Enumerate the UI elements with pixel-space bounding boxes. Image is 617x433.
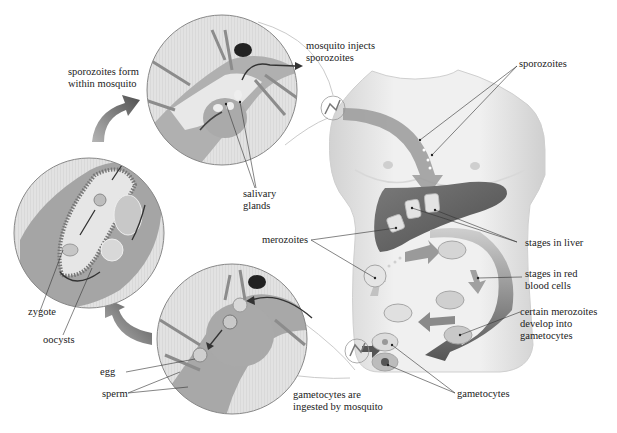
label-mosquito-injects: mosquito injects sporozoites	[306, 40, 375, 64]
mosquito-eye-2	[248, 275, 266, 289]
rbc-2	[436, 291, 464, 309]
gametocyte-in-gut-2	[223, 315, 237, 329]
label-sporozoites: sporozoites	[519, 58, 567, 70]
mosquito-eye	[234, 43, 252, 57]
label-gametocytes-ingested: gametocytes are ingested by mosquito	[293, 389, 383, 413]
rbc-gametocyte-dev	[444, 326, 472, 344]
rbc-3	[384, 304, 412, 322]
label-sporozoites-form: sporozoites form within mosquito	[68, 66, 139, 90]
merozoite-cluster	[364, 265, 386, 287]
label-stages-in-liver: stages in liver	[525, 237, 583, 249]
oocyst-cell	[101, 239, 123, 261]
inset-gametocytes-ingested	[157, 264, 312, 420]
gametocyte-in-gut-1	[233, 298, 247, 312]
rbc-1	[438, 241, 466, 259]
label-salivary-glands: salivary glands	[243, 188, 276, 212]
right-nipple	[470, 162, 480, 170]
label-zygote: zygote	[28, 306, 56, 318]
label-certain-merozoites: certain merozoites develop into gametocy…	[520, 306, 597, 342]
left-nipple	[383, 161, 393, 169]
inset-mosquito-midgut	[14, 158, 164, 308]
label-sperm: sperm	[102, 388, 128, 400]
label-stages-in-rbc: stages in red blood cells	[525, 268, 578, 292]
cycle-arrow-left	[105, 298, 152, 345]
egg-cell	[193, 348, 207, 362]
label-merozoites: merozoites	[262, 234, 308, 246]
cycle-arrow-up	[92, 95, 140, 142]
zygote-cell	[62, 244, 78, 256]
label-egg: egg	[100, 366, 115, 378]
label-gametocytes: gametocytes	[457, 388, 509, 400]
inset-salivary-glands	[140, 15, 303, 175]
label-oocysts: oocysts	[43, 334, 75, 346]
